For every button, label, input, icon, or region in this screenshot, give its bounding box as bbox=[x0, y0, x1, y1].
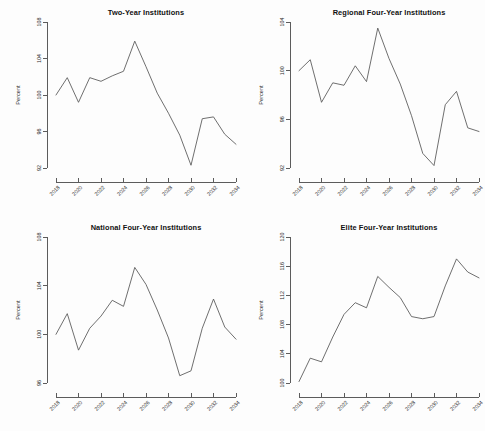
panel-title: National Four-Year Institutions bbox=[91, 223, 202, 232]
x-tick-label: 2024 bbox=[359, 184, 372, 197]
x-tick-label: 2024 bbox=[359, 399, 372, 412]
x-tick-label: 2030 bbox=[183, 399, 196, 412]
panel-two-year-institutions: Two-Year Institutions9296100104108Percen… bbox=[0, 0, 242, 215]
panel-title: Two-Year Institutions bbox=[108, 8, 184, 17]
chart-canvas: National Four-Year Institutions961001041… bbox=[0, 215, 242, 430]
panel-national-four-year-institutions: National Four-Year Institutions961001041… bbox=[0, 215, 242, 430]
x-tick-label: 2020 bbox=[71, 399, 84, 412]
y-tick-label: 100 bbox=[279, 66, 285, 75]
x-tick-label: 2022 bbox=[93, 184, 106, 197]
x-tick-label: 2026 bbox=[381, 399, 394, 412]
x-tick-label: 2034 bbox=[471, 184, 484, 197]
y-tick-label: 108 bbox=[36, 18, 42, 27]
x-tick-label: 2032 bbox=[449, 184, 462, 197]
y-axis-title: Percent bbox=[15, 300, 21, 320]
series-line bbox=[299, 28, 479, 165]
y-tick-label: 104 bbox=[36, 281, 42, 290]
y-tick-label: 112 bbox=[279, 291, 285, 300]
x-tick-label: 2032 bbox=[206, 399, 219, 412]
y-tick-label: 104 bbox=[279, 18, 285, 27]
panel-title: Elite Four-Year Institutions bbox=[341, 223, 438, 232]
y-tick-label: 96 bbox=[36, 129, 42, 135]
multi-panel-figure: Two-Year Institutions9296100104108Percen… bbox=[0, 0, 485, 431]
x-tick-label: 2034 bbox=[228, 399, 241, 412]
series-line bbox=[299, 259, 479, 382]
y-tick-label: 108 bbox=[36, 233, 42, 242]
x-tick-label: 2030 bbox=[426, 399, 439, 412]
x-tick-label: 2032 bbox=[449, 399, 462, 412]
x-tick-label: 2028 bbox=[404, 184, 417, 197]
x-tick-label: 2018 bbox=[291, 399, 304, 412]
x-tick-label: 2028 bbox=[404, 399, 417, 412]
y-tick-label: 104 bbox=[279, 349, 285, 358]
x-tick-label: 2020 bbox=[314, 399, 327, 412]
series-line bbox=[56, 41, 236, 165]
y-tick-label: 104 bbox=[36, 54, 42, 63]
x-tick-label: 2034 bbox=[471, 399, 484, 412]
y-tick-label: 120 bbox=[279, 233, 285, 242]
y-tick-label: 92 bbox=[36, 165, 42, 171]
x-tick-label: 2026 bbox=[381, 184, 394, 197]
y-tick-label: 100 bbox=[279, 379, 285, 388]
x-tick-label: 2022 bbox=[93, 399, 106, 412]
panel-regional-four-year-institutions: Regional Four-Year Institutions929610010… bbox=[243, 0, 485, 215]
x-tick-label: 2024 bbox=[116, 399, 129, 412]
x-tick-label: 2020 bbox=[314, 184, 327, 197]
chart-canvas: Elite Four-Year Institutions100104108112… bbox=[243, 215, 485, 430]
y-tick-label: 96 bbox=[279, 116, 285, 122]
panel-elite-four-year-institutions: Elite Four-Year Institutions100104108112… bbox=[243, 215, 485, 430]
x-tick-label: 2032 bbox=[206, 184, 219, 197]
y-tick-label: 92 bbox=[279, 165, 285, 171]
x-tick-label: 2022 bbox=[336, 184, 349, 197]
x-tick-label: 2034 bbox=[228, 184, 241, 197]
y-axis-title: Percent bbox=[258, 300, 264, 320]
chart-canvas: Two-Year Institutions9296100104108Percen… bbox=[0, 0, 242, 215]
x-tick-label: 2020 bbox=[71, 184, 84, 197]
x-tick-label: 2028 bbox=[161, 399, 174, 412]
x-tick-label: 2018 bbox=[48, 184, 61, 197]
x-tick-label: 2018 bbox=[48, 399, 61, 412]
series-line bbox=[56, 267, 236, 375]
y-axis-title: Percent bbox=[15, 85, 21, 105]
y-tick-label: 100 bbox=[36, 91, 42, 100]
y-tick-label: 100 bbox=[36, 330, 42, 339]
panel-title: Regional Four-Year Institutions bbox=[333, 8, 446, 17]
x-tick-label: 2026 bbox=[138, 399, 151, 412]
y-tick-label: 108 bbox=[279, 320, 285, 329]
x-tick-label: 2026 bbox=[138, 184, 151, 197]
x-tick-label: 2030 bbox=[183, 184, 196, 197]
y-tick-label: 96 bbox=[36, 380, 42, 386]
x-tick-label: 2028 bbox=[161, 184, 174, 197]
y-axis-title: Percent bbox=[258, 85, 264, 105]
chart-canvas: Regional Four-Year Institutions929610010… bbox=[243, 0, 485, 215]
x-tick-label: 2018 bbox=[291, 184, 304, 197]
x-tick-label: 2030 bbox=[426, 184, 439, 197]
y-tick-label: 116 bbox=[279, 262, 285, 271]
x-tick-label: 2022 bbox=[336, 399, 349, 412]
x-tick-label: 2024 bbox=[116, 184, 129, 197]
